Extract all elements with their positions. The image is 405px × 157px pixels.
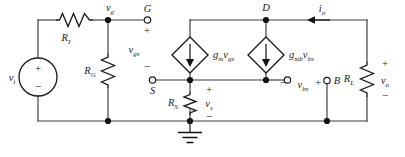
voltage-vbs: − vbs + [280, 76, 321, 93]
voltage-vgs-label: vgs [129, 44, 140, 58]
terminal-gate[interactable]: G [144, 3, 152, 23]
resistor-rs-label: RS [167, 97, 178, 111]
node-dots [105, 17, 330, 124]
node-dot-source-rail [187, 77, 193, 83]
terminal-source[interactable]: S [149, 77, 156, 96]
voltage-vgs-minus: − [144, 60, 150, 72]
resistor-rg-label: RG [83, 65, 95, 79]
voltage-vs: + vs − [205, 83, 213, 122]
voltage-vo-plus: + [382, 57, 388, 69]
node-dot-body-rail [324, 118, 330, 124]
resistor-ri-label: RI [61, 32, 71, 46]
resistor-ri-zigzag [56, 14, 93, 27]
body-terminal-circle[interactable] [324, 77, 330, 83]
terminal-body[interactable]: B [324, 75, 341, 86]
resistor-rg: RG [83, 54, 114, 88]
voltage-vgs-plus: + [144, 24, 150, 36]
dependent-source-gm: gmvgs [172, 37, 234, 73]
node-dot-vg [105, 17, 111, 23]
source-vi-minus: − [35, 80, 41, 92]
gate-terminal-circle[interactable] [144, 17, 150, 23]
resistor-rl-label: RL [343, 73, 354, 87]
resistor-rl-zigzag [361, 62, 374, 97]
voltage-vgs: + vgs − [129, 24, 151, 72]
voltage-vo-minus: − [382, 89, 388, 101]
current-io: io [307, 3, 330, 24]
current-io-arrow-head [307, 16, 315, 23]
source-vi-plus: + [35, 62, 41, 74]
node-dot-gmb-bottom [263, 77, 269, 83]
voltage-vbs-plus: + [315, 76, 321, 88]
schematic-canvas: RI RG RS RL + − vi gmvgs gmbvbs G [0, 0, 405, 157]
voltage-vo: + vo − [381, 57, 390, 101]
resistor-rs: RS [167, 92, 196, 115]
ground-symbol [178, 121, 202, 143]
source-vi: + − vi [9, 58, 57, 96]
voltage-vbs-label: vbs [298, 79, 309, 93]
node-label-vg: vg [106, 2, 115, 16]
drain-node-dot [263, 17, 269, 23]
voltage-vo-label: vo [381, 75, 390, 89]
voltage-vs-minus: − [206, 110, 212, 122]
source-vi-label: vi [9, 72, 16, 86]
source-terminal-circle[interactable] [149, 77, 155, 83]
drain-terminal-label: D [261, 2, 270, 13]
resistor-rl: RL [343, 62, 374, 97]
dependent-source-gmb-label: gmbvbs [289, 49, 314, 63]
voltage-vs-plus: + [206, 83, 212, 95]
dependent-source-gmb: gmbvbs [248, 37, 314, 73]
circuit-diagram: RI RG RS RL + − vi gmvgs gmbvbs G [0, 0, 405, 157]
node-dot-rg-rail [105, 118, 111, 124]
dependent-source-gm-label: gmvgs [213, 49, 234, 63]
resistor-ri: RI [56, 14, 93, 46]
source-terminal-label: S [150, 85, 156, 96]
resistor-rg-zigzag [102, 54, 115, 88]
current-io-label: io [319, 3, 326, 17]
gate-terminal-label: G [144, 3, 152, 14]
body-terminal-label: B [334, 75, 341, 86]
voltage-vbs-minus: − [280, 76, 286, 88]
